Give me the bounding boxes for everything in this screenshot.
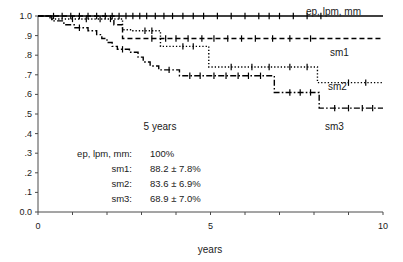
legend-row-value: 83.6 ± 6.9% bbox=[150, 178, 201, 189]
censor-mark-group bbox=[54, 13, 373, 112]
y-tick-label: 0.0 bbox=[19, 207, 32, 217]
survival-chart-figure: 0.0.1.2.3.4.5.6.7.8.91.0 0510 years 5 ye… bbox=[0, 0, 403, 262]
x-tick-label: 0 bbox=[35, 221, 40, 231]
curve-sm3 bbox=[38, 16, 383, 108]
legend-row-value: 100% bbox=[150, 148, 175, 159]
y-tick-group: 0.0.1.2.3.4.5.6.7.8.91.0 bbox=[19, 11, 38, 217]
series-label-sm1: sm1 bbox=[330, 47, 349, 58]
y-tick-label: .7 bbox=[24, 70, 32, 80]
x-axis-title: years bbox=[198, 244, 222, 255]
x-tick-label: 10 bbox=[378, 221, 388, 231]
y-tick-label: .4 bbox=[24, 129, 32, 139]
legend-row-value: 68.9 ± 7.0% bbox=[150, 193, 201, 204]
curve-group bbox=[38, 16, 383, 108]
series-label-sm2: sm2 bbox=[328, 81, 347, 92]
y-tick-label: 1.0 bbox=[19, 11, 32, 21]
legend-row-name: sm3: bbox=[111, 193, 132, 204]
y-tick-label: .5 bbox=[24, 109, 32, 119]
legend-row-name: sm1: bbox=[111, 163, 132, 174]
series-label-sm3: sm3 bbox=[325, 121, 344, 132]
y-tick-label: .9 bbox=[24, 31, 32, 41]
y-tick-label: .2 bbox=[24, 168, 32, 178]
y-tick-label: .3 bbox=[24, 148, 32, 158]
five-years-annotation: 5 years bbox=[144, 121, 177, 132]
series-label-ep-lpm-mm: ep, lpm, mm bbox=[306, 6, 361, 17]
legend-row-name: sm2: bbox=[111, 178, 132, 189]
y-axis: 0.0.1.2.3.4.5.6.7.8.91.0 bbox=[19, 11, 38, 217]
x-tick-label: 5 bbox=[208, 221, 213, 231]
legend-stats-box: ep, lpm, mm:100%sm1:88.2 ± 7.8%sm2:83.6 … bbox=[77, 148, 201, 204]
y-tick-label: .6 bbox=[24, 89, 32, 99]
legend-row-name: ep, lpm, mm: bbox=[77, 148, 132, 159]
legend-row-value: 88.2 ± 7.8% bbox=[150, 163, 201, 174]
x-axis: 0510 bbox=[35, 212, 388, 231]
x-tick-group: 0510 bbox=[35, 212, 388, 231]
y-tick-label: .1 bbox=[24, 187, 32, 197]
chart-canvas: 0.0.1.2.3.4.5.6.7.8.91.0 0510 years 5 ye… bbox=[0, 0, 403, 262]
curve-sm1 bbox=[38, 16, 383, 39]
y-tick-label: .8 bbox=[24, 50, 32, 60]
